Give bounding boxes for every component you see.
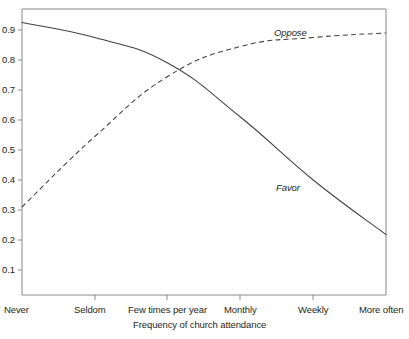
y-tick-label-6: 0.3: [0, 205, 15, 215]
y-tick-label-1: 0.8: [0, 55, 15, 65]
y-tick-label-8: 0.1: [0, 265, 15, 275]
y-tick-label-5: 0.4: [0, 175, 15, 185]
x-axis-ticks: [95, 295, 313, 300]
x-tick-label-weekly: Weekly: [298, 304, 328, 315]
y-tick-label-3: 0.6: [0, 115, 15, 125]
x-tick-label-seldom: Seldom: [74, 304, 106, 315]
chart-plot-area: [0, 0, 409, 339]
x-tick-label-more-often: More often: [359, 304, 403, 315]
x-axis-title: Frequency of church attendance: [133, 319, 266, 330]
y-tick-label-4: 0.5: [0, 145, 15, 155]
y-tick-label-7: 0.2: [0, 235, 15, 245]
series-label-favor: Favor: [276, 182, 300, 193]
chart-figure: 0.9 0.8 0.7 0.6 0.5 0.4 0.3 0.2 0.1 Neve…: [0, 0, 409, 339]
series-label-oppose: Oppose: [274, 27, 307, 38]
axis-lines: [22, 9, 386, 295]
x-tick-label-few-times: Few times per year: [128, 304, 207, 315]
x-tick-label-never: Never: [4, 304, 29, 315]
y-tick-label-2: 0.7: [0, 85, 15, 95]
x-tick-label-monthly: Monthly: [224, 304, 257, 315]
y-axis-ticks: [18, 30, 22, 270]
series-curve-oppose: [22, 33, 386, 207]
series-line-favor: [22, 53, 167, 78]
series-curve-favor: [22, 23, 386, 235]
y-tick-label-0: 0.9: [0, 25, 15, 35]
